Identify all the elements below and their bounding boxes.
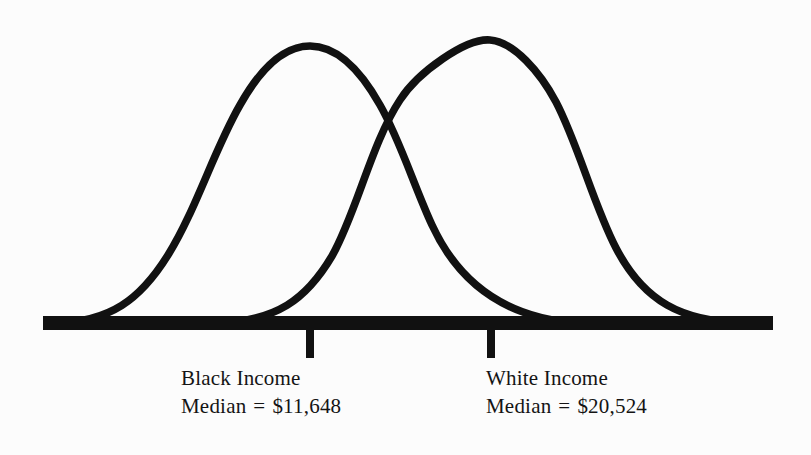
white-income-median-word: Median [486, 394, 551, 418]
white-income-title: White Income [486, 364, 647, 392]
black-median-tick [306, 329, 314, 358]
white-income-label: White Income Median=$20,524 [486, 364, 647, 420]
black-income-median-line: Median=$11,648 [181, 392, 341, 420]
black-income-median-word: Median [181, 394, 246, 418]
white-income-curve [218, 40, 742, 323]
white-income-equals-sign: = [558, 394, 570, 418]
white-income-median-value: $20,524 [577, 394, 647, 418]
white-income-median-line: Median=$20,524 [486, 392, 647, 420]
white-median-tick [487, 329, 495, 358]
black-income-median-value: $11,648 [272, 394, 341, 418]
distribution-curves-svg [0, 0, 811, 455]
black-income-equals-sign: = [253, 394, 265, 418]
black-income-label: Black Income Median=$11,648 [181, 364, 341, 420]
income-axis-baseline [43, 316, 773, 330]
black-income-title: Black Income [181, 364, 341, 392]
income-distribution-figure: Black Income Median=$11,648 White Income… [0, 0, 811, 455]
